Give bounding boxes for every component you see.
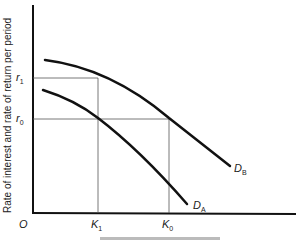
demand-for-capital-chart: r1 r0 O K1 K0 DB DA Rate of interest and…	[0, 0, 298, 240]
label-origin: O	[19, 218, 28, 230]
label-r1: r1	[16, 71, 24, 85]
label-da: DA	[193, 199, 206, 213]
label-db: DB	[234, 162, 247, 176]
label-r0: r0	[16, 112, 24, 126]
x-axis	[32, 213, 296, 214]
label-k1: K1	[91, 218, 102, 232]
curve-db	[45, 60, 230, 166]
label-k0: K0	[162, 218, 173, 232]
curve-da	[43, 90, 187, 204]
y-axis-title: Rate of interest and rate of return per …	[2, 18, 13, 213]
